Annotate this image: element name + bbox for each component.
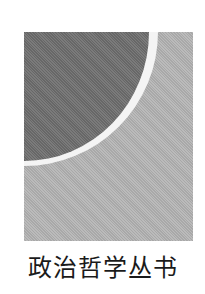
emblem-quarter-circle: [24, 32, 149, 161]
series-emblem: [24, 32, 193, 241]
series-title: 政治哲学丛书: [0, 254, 205, 282]
